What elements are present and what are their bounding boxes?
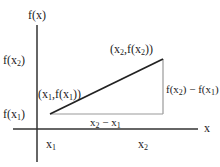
y-tick-fx1: f(x1) <box>3 108 25 120</box>
x-axis-label: x <box>204 122 210 134</box>
x-tick-x1: x1 <box>46 138 56 150</box>
rise-label: f(x2) − f(x1) <box>166 83 219 95</box>
run-label: x2 − x1 <box>90 116 121 128</box>
x-tick-x2: x2 <box>138 138 148 150</box>
y-tick-fx2: f(x2) <box>3 54 25 66</box>
point-p1-label: (x1,f(x1)) <box>38 88 81 100</box>
point-p2-label: (x2,f(x2)) <box>110 43 153 55</box>
y-axis-label: f(x) <box>28 9 46 21</box>
